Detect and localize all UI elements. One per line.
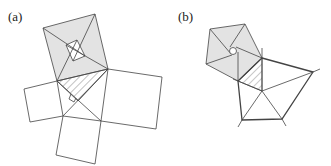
diagram-canvas <box>0 0 331 166</box>
panel-a-figure <box>24 14 162 164</box>
right-square <box>101 69 162 129</box>
left-square <box>24 81 63 122</box>
panel-b-figure <box>206 24 320 127</box>
bottom-square <box>56 116 101 164</box>
